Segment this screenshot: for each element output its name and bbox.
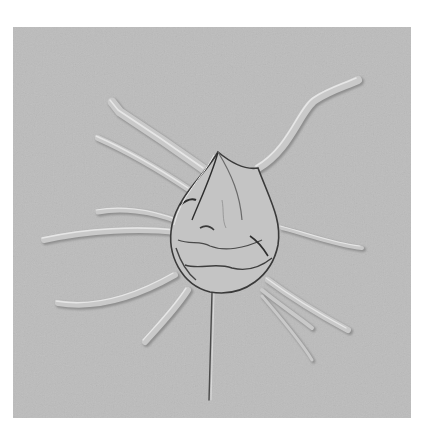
- micrograph-image: [0, 0, 431, 445]
- micrograph-figure: Spiny cell micrograph: [0, 0, 431, 445]
